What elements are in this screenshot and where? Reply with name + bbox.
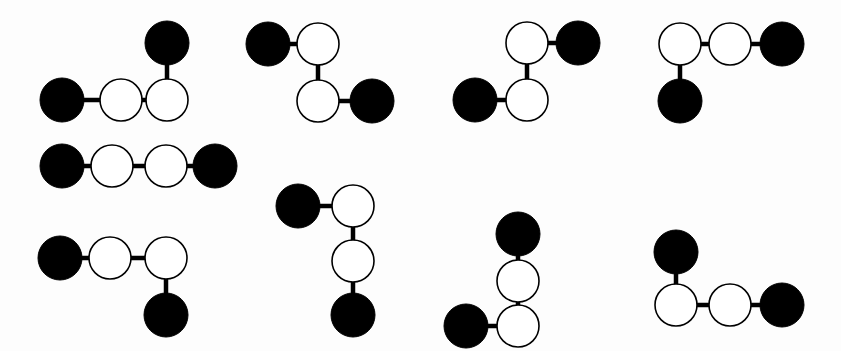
graph-figure-canvas <box>0 0 841 351</box>
graph-node-filled <box>444 304 488 348</box>
graph-node-open <box>89 237 131 279</box>
graph-node-open <box>497 260 539 302</box>
graph-node-filled <box>246 22 290 66</box>
graph-node-open <box>659 23 701 65</box>
graph-node-open <box>332 185 374 227</box>
graph-node-filled <box>40 78 84 122</box>
graph-node-filled <box>760 22 804 66</box>
graph-node-filled <box>556 21 600 65</box>
graph-node-open <box>497 305 539 347</box>
graph-node-filled <box>145 21 189 65</box>
graph-node-filled <box>193 144 237 188</box>
graph-diagram-svg <box>0 0 841 351</box>
graph-node-open <box>297 23 339 65</box>
graph-node-filled <box>350 79 394 123</box>
graph-node-open <box>709 23 751 65</box>
graph-node-open <box>506 22 548 64</box>
graph-node-open <box>709 284 751 326</box>
graph-node-filled <box>38 236 82 280</box>
graph-node-open <box>332 240 374 282</box>
graph-node-open <box>91 145 133 187</box>
graph-node-open <box>145 237 187 279</box>
graph-node-open <box>297 80 339 122</box>
graph-node-filled <box>40 144 84 188</box>
graph-node-filled <box>760 283 804 327</box>
nodes-layer <box>38 21 804 348</box>
graph-node-filled <box>658 79 702 123</box>
graph-node-filled <box>496 212 540 256</box>
graph-node-filled <box>276 184 320 228</box>
graph-node-open <box>100 79 142 121</box>
graph-node-filled <box>453 78 497 122</box>
graph-node-filled <box>331 293 375 337</box>
graph-node-open <box>655 284 697 326</box>
graph-node-filled <box>144 293 188 337</box>
graph-node-filled <box>654 230 698 274</box>
graph-node-open <box>506 79 548 121</box>
graph-node-open <box>146 79 188 121</box>
graph-node-open <box>145 145 187 187</box>
